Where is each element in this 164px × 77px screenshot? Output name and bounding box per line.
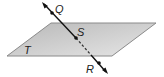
label-r: R: [86, 63, 94, 75]
label-s: S: [77, 26, 85, 38]
label-q: Q: [55, 3, 64, 15]
point-q: [50, 11, 54, 15]
point-r: [97, 61, 101, 65]
geometry-diagram: Q S R T: [0, 0, 164, 77]
